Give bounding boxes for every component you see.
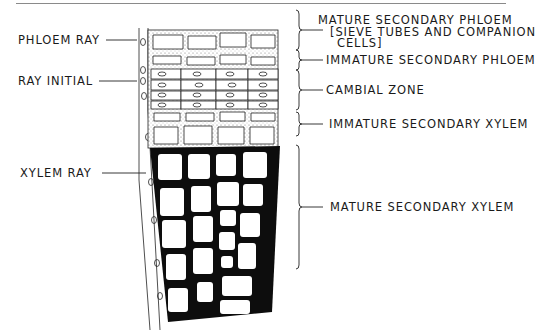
label-immature-secondary-xylem: IMMATURE SECONDARY XYLEM bbox=[329, 118, 528, 130]
phloem-and-cambium-cells bbox=[148, 30, 278, 148]
label-immature-secondary-phloem: IMMATURE SECONDARY PHLOEM bbox=[326, 54, 536, 66]
label-phloem-ray: PHLOEM RAY bbox=[18, 34, 100, 46]
mature-xylem-cells bbox=[150, 146, 280, 322]
label-mature-secondary-xylem: MATURE SECONDARY XYLEM bbox=[330, 201, 514, 213]
label-cambial-zone: CAMBIAL ZONE bbox=[326, 84, 425, 96]
right-braces bbox=[296, 10, 323, 269]
label-ray-initial: RAY INITIAL bbox=[18, 75, 93, 87]
label-companion-cells-line: CELLS] bbox=[337, 37, 382, 49]
label-xylem-ray: XYLEM RAY bbox=[20, 167, 92, 179]
diagram-canvas: PHLOEM RAY RAY INITIAL XYLEM RAY MATURE … bbox=[0, 0, 555, 332]
